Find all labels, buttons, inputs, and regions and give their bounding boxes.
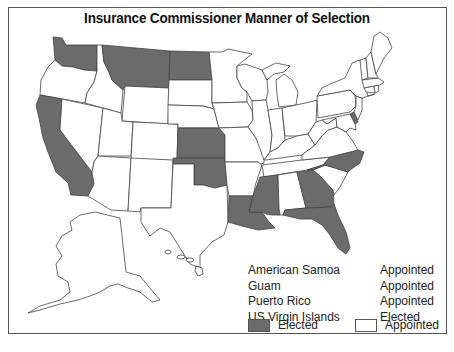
territory-method: Appointed — [380, 263, 438, 279]
state-wyoming — [122, 86, 169, 124]
territory-name: Puerto Rico — [248, 294, 311, 310]
territories-list: American Samoa Appointed Guam Appointed … — [248, 263, 438, 325]
territory-method: Appointed — [380, 279, 438, 295]
elected-swatch — [248, 319, 270, 332]
territory-method: Appointed — [380, 294, 438, 310]
territory-row: American Samoa Appointed — [248, 263, 438, 279]
state-kansas — [177, 128, 225, 158]
state-florida — [283, 204, 350, 254]
territory-row: Guam Appointed — [248, 279, 438, 295]
legend-elected: Elected — [248, 318, 318, 332]
state-new-mexico — [128, 158, 173, 212]
state-massachusetts — [362, 78, 384, 88]
state-north-dakota — [169, 51, 212, 80]
legend-elected-label: Elected — [278, 318, 318, 332]
territory-row: Puerto Rico Appointed — [248, 294, 438, 310]
state-colorado — [131, 122, 178, 162]
territory-name: Guam — [248, 279, 281, 295]
state-alaska — [28, 212, 160, 313]
state-iowa — [212, 102, 253, 128]
legend-appointed-label: Appointed — [385, 318, 439, 332]
appointed-swatch — [355, 319, 377, 332]
state-south-dakota — [168, 80, 214, 109]
legend-appointed: Appointed — [355, 318, 439, 332]
territory-name: American Samoa — [248, 263, 340, 279]
state-arizona — [88, 156, 131, 211]
